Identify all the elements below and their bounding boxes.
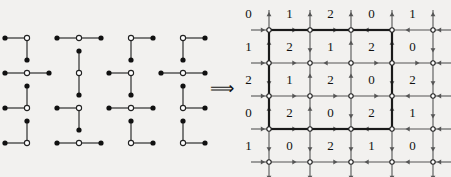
arrow-down-icon (390, 176, 395, 177)
arrow-right-icon (292, 160, 296, 165)
piece-endpoint-node (128, 118, 133, 123)
grid-cell-label: 0 (283, 139, 297, 153)
grid-cell-label: 1 (406, 7, 420, 21)
grid-cell-label: 2 (365, 40, 379, 54)
piece-endpoint-node (128, 57, 133, 62)
arrow-right-icon (415, 61, 419, 66)
grid-node (390, 94, 394, 98)
arrow-up-icon (267, 12, 272, 16)
piece-endpoint-node (150, 140, 155, 145)
piece (128, 35, 155, 62)
grid-node (308, 160, 312, 164)
piece-endpoint-node (202, 35, 207, 40)
piece-center-node (24, 105, 29, 110)
piece-center-node (128, 140, 133, 145)
grid-cell-label: 0 (406, 40, 420, 54)
grid-cell-label: 0 (365, 7, 379, 21)
arrow-up-icon (349, 12, 354, 16)
figure-root: ⟹ 0120112120212020202110210 (0, 0, 451, 177)
arrow-right-icon (261, 94, 265, 99)
arrow-left-icon (437, 94, 441, 99)
arrow-left-icon (406, 94, 410, 99)
grid-cell-label: 1 (242, 139, 256, 153)
arrow-down-icon (349, 176, 354, 177)
grid-node (431, 61, 435, 65)
arrow-up-icon (349, 41, 354, 45)
grid-node (349, 160, 353, 164)
piece (2, 35, 29, 62)
arrow-down-icon (431, 114, 436, 118)
grid-node (267, 28, 271, 32)
piece-center-node (128, 35, 133, 40)
piece (76, 48, 81, 97)
grid-node (308, 127, 312, 131)
piece-endpoint-node (76, 48, 81, 53)
arrow-up-icon (431, 12, 436, 16)
arrow-right-icon (292, 61, 296, 66)
grid-cell-label: 0 (242, 7, 256, 21)
grid-cell-label: 1 (324, 40, 338, 54)
piece-endpoint-node (54, 35, 59, 40)
grid-cell-label: 2 (365, 106, 379, 120)
arrow-down-icon (431, 176, 436, 177)
arrow-right-icon (261, 28, 265, 33)
piece-endpoint-node (128, 92, 133, 97)
arrow-left-icon (437, 127, 441, 132)
arrow-right-icon (261, 127, 265, 132)
piece (54, 140, 103, 145)
grid-node (308, 94, 312, 98)
piece-endpoint-node (24, 83, 29, 88)
arrow-up-icon (390, 12, 395, 16)
piece-endpoint-node (180, 118, 185, 123)
piece-center-node (76, 70, 81, 75)
piece-center-node (24, 35, 29, 40)
piece-endpoint-node (54, 105, 59, 110)
arrow-up-icon (349, 74, 354, 78)
arrow-down-icon (390, 147, 395, 151)
piece-center-node (76, 140, 81, 145)
grid-node (308, 28, 312, 32)
grid-node (431, 160, 435, 164)
piece-center-node (24, 70, 29, 75)
arrow-down-icon (431, 81, 436, 85)
piece-center-node (180, 70, 185, 75)
piece (158, 70, 207, 75)
piece-center-node (180, 105, 185, 110)
piece-endpoint-node (202, 140, 207, 145)
labelled-arrow-grid (251, 10, 451, 177)
piece-endpoint-node (24, 118, 29, 123)
grid-cell-label: 1 (406, 106, 420, 120)
arrow-up-icon (308, 107, 313, 111)
piece-endpoint-node (76, 127, 81, 132)
piece-endpoint-node (158, 70, 163, 75)
grid-cell-label: 2 (283, 106, 297, 120)
grid-cell-label: 2 (324, 7, 338, 21)
grid-cell-label: 1 (283, 7, 297, 21)
grid-cell-label: 2 (283, 40, 297, 54)
piece-endpoint-node (180, 57, 185, 62)
piece-endpoint-node (24, 57, 29, 62)
piece-center-node (128, 105, 133, 110)
piece (54, 35, 103, 40)
arrow-down-icon (431, 48, 436, 52)
piece-endpoint-node (106, 105, 111, 110)
arrow-left-icon (437, 160, 441, 165)
grid-cell-label: 0 (365, 73, 379, 87)
piece-endpoint-node (2, 105, 7, 110)
arrow-down-icon (349, 114, 354, 118)
grid-cell-label: 1 (242, 40, 256, 54)
piece (180, 83, 207, 110)
piece (180, 35, 207, 62)
grid-cell-label: 2 (242, 73, 256, 87)
arrow-left-icon (365, 160, 369, 165)
grid-node (431, 94, 435, 98)
implies-icon: ⟹ (210, 78, 234, 99)
grid-node (267, 61, 271, 65)
piece-center-node (180, 140, 185, 145)
grid-cell-label: 0 (242, 106, 256, 120)
grid-node (349, 94, 353, 98)
piece-endpoint-node (98, 140, 103, 145)
arrow-right-icon (333, 94, 337, 99)
piece-center-node (76, 35, 81, 40)
arrow-down-icon (267, 176, 272, 177)
